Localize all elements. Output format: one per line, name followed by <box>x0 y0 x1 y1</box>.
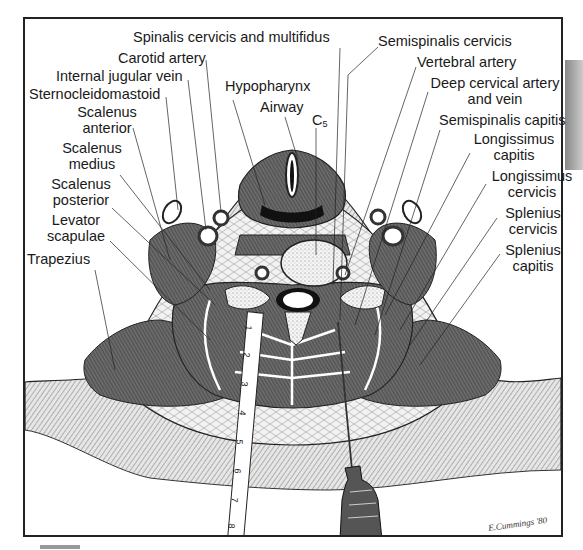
c5-vertebral-body <box>281 240 347 286</box>
label-splenius-capitis: Spleniuscapitis <box>503 242 563 274</box>
carotid-left <box>214 211 228 225</box>
ijv-left <box>199 227 217 245</box>
label-levator-scapulae: Levatorscapulae <box>44 212 108 244</box>
label-spinalis-cervicis: Spinalis cervicis and multifidus <box>133 29 330 45</box>
label-longissimus-cervicis: Longissimuscervicis <box>488 168 576 200</box>
label-internal-jugular-vein: Internal jugular vein <box>56 68 183 84</box>
label-vertebral-artery: Vertebral artery <box>417 54 516 70</box>
label-semispinalis-capitis: Semispinalis capitis <box>439 112 566 128</box>
label-sternocleidomastoid: Sternocleidomastoid <box>29 86 160 102</box>
page-edge-shadow <box>565 60 583 170</box>
label-airway: Airway <box>260 99 304 115</box>
label-trapezius: Trapezius <box>27 251 90 267</box>
label-deep-cervical-artery-vein: Deep cervical arteryand vein <box>425 75 565 107</box>
label-splenius-cervicis: Spleniuscervicis <box>503 205 563 237</box>
label-scalenus-posterior: Scalenusposterior <box>46 176 116 208</box>
label-c5: C5 <box>312 112 328 132</box>
label-longissimus-capitis: Longissimuscapitis <box>470 131 558 163</box>
ijv-right <box>383 227 403 245</box>
label-scalenus-medius: Scalenusmedius <box>57 140 127 172</box>
label-carotid-artery: Carotid artery <box>118 50 206 66</box>
label-hypopharynx: Hypopharynx <box>225 78 310 94</box>
carotid-right <box>371 210 385 224</box>
label-semispinalis-cervicis: Semispinalis cervicis <box>378 33 512 49</box>
caption-fragment <box>40 545 80 549</box>
label-scalenus-anterior: Scalenusanterior <box>72 104 142 136</box>
